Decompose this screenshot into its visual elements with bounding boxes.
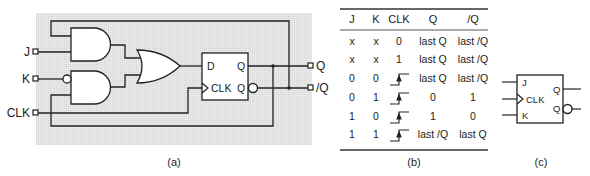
table-row: 0 0 last Q last /Q [349,72,488,84]
rising-edge-icon [390,93,409,104]
cell-clk: 1 [396,53,402,65]
k-input-label: K [22,72,30,86]
q-output-label: Q [316,59,325,73]
truth-table: J K CLK Q /Q x x 0 last Q last /Q x x 1 … [340,9,488,168]
symbol-k-label: K [522,110,529,121]
rising-edge-icon [390,112,409,123]
rising-edge-icon [390,74,409,85]
junction-dot-q [271,64,275,68]
symbol-q-label: Q [553,84,560,95]
cell-j: 0 [349,72,355,84]
symbol-j-label: J [522,77,527,88]
k-terminal [33,76,38,81]
cell-q: last /Q [418,128,448,140]
symbol-clk-label: CLK [526,94,545,105]
ff-d-label: D [207,60,215,72]
cell-j: x [349,53,355,65]
cell-qbar: last /Q [458,35,488,47]
jk-flipflop-circuit: J K CLK Q /Q D CLK Q Q (a) [7,13,329,168]
table-row: 1 0 1 0 [349,110,476,122]
clk-terminal [33,110,38,115]
header-qbar: /Q [467,13,479,25]
cell-j: 0 [349,91,355,103]
ff-q-label: Q [237,60,245,72]
cell-j: 1 [349,128,355,140]
qbar-inverter-bubble [563,105,572,114]
clk-input-label: CLK [7,106,30,120]
cell-k: 1 [373,91,379,103]
caption-a: (a) [167,156,180,168]
cell-q: last Q [419,72,446,84]
cell-k: x [373,53,379,65]
ff-clk-label: CLK [211,82,231,94]
cell-q: last Q [419,35,446,47]
ff-qbar-label: Q [237,82,245,94]
cell-k: x [373,35,379,47]
table-header-row: J K CLK Q /Q [349,13,479,25]
header-clk: CLK [388,13,410,25]
caption-c: (c) [535,156,548,168]
header-q: Q [429,13,438,25]
qbar-output-label: /Q [316,81,329,95]
cell-j: x [349,35,355,47]
qbar-terminal [308,85,313,90]
table-row: 1 1 last /Q last Q [349,128,487,140]
cell-qbar: last Q [459,128,486,140]
cell-q: last Q [419,53,446,65]
symbol-qbar-label: Q [553,103,560,114]
jk-flipflop-symbol: J CLK K Q Q (c) [502,75,581,168]
cell-q: 1 [430,110,436,122]
header-j: J [349,13,355,25]
cell-j: 1 [349,110,355,122]
and-gate-1 [71,28,111,61]
k-inverter-bubble [63,75,71,83]
junction-dot-qbar [287,86,291,90]
table-row: x x 1 last Q last /Q [349,53,488,65]
table-row: 0 1 0 1 [349,91,476,103]
cell-k: 0 [373,110,379,122]
j-terminal [33,49,38,54]
q-terminal [308,63,313,68]
cell-clk: 0 [396,35,402,47]
and-gate-2 [71,71,111,104]
cell-qbar: 1 [470,91,476,103]
table-row: x x 0 last Q last /Q [349,35,488,47]
caption-b: (b) [407,156,420,168]
figure-canvas: J K CLK Q /Q D CLK Q Q (a) J K CLK Q /Q … [0,0,590,176]
cell-qbar: last /Q [458,53,488,65]
rising-edge-icon [390,130,409,141]
j-input-label: J [24,45,30,59]
header-k: K [372,13,380,25]
qbar-inverter-bubble [249,84,258,93]
cell-qbar: last /Q [458,72,488,84]
cell-qbar: 0 [470,110,476,122]
cell-k: 1 [373,128,379,140]
cell-q: 0 [430,91,436,103]
cell-k: 0 [373,72,379,84]
